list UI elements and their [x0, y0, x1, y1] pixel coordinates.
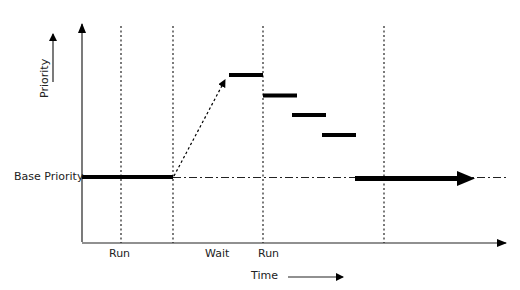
- x-axis-label: Time: [251, 269, 278, 282]
- base-priority-label: Base Priority: [14, 170, 83, 183]
- boost-arrow: [174, 80, 225, 176]
- phase-label-wait: Wait: [205, 247, 229, 260]
- phase-label-run-2: Run: [258, 247, 279, 260]
- run-arrowhead-icon: [457, 171, 475, 186]
- phase-label-run-1: Run: [109, 247, 130, 260]
- y-axis-label: Priority: [38, 59, 51, 98]
- priority-steps: [229, 75, 356, 135]
